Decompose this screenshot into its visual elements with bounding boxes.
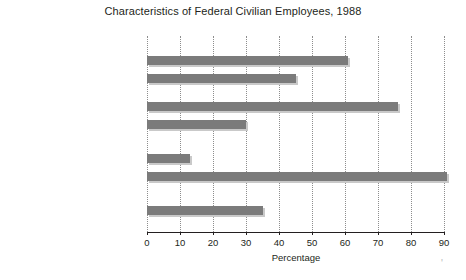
tick-label-30: 30 xyxy=(231,237,261,248)
tick-label-10: 10 xyxy=(165,237,195,248)
tick-30 xyxy=(246,232,247,235)
tick-60 xyxy=(345,232,346,235)
bar xyxy=(147,154,190,163)
bar xyxy=(147,120,246,129)
bar-fill xyxy=(147,120,246,129)
tick-40 xyxy=(279,232,280,235)
x-axis-line xyxy=(147,232,445,233)
bar xyxy=(147,74,296,83)
tick-label-70: 70 xyxy=(363,237,393,248)
tick-label-20: 20 xyxy=(198,237,228,248)
tick-80 xyxy=(411,232,412,235)
tick-label-60: 60 xyxy=(330,237,360,248)
bar-fill xyxy=(147,102,398,111)
bar xyxy=(147,172,447,181)
tick-label-40: 40 xyxy=(264,237,294,248)
chart-figure: Characteristics of Federal Civilian Empl… xyxy=(0,0,466,280)
tick-label-80: 80 xyxy=(396,237,426,248)
gridline-80 xyxy=(411,36,413,232)
bar xyxy=(147,56,348,65)
tick-10 xyxy=(180,232,181,235)
bar-fill xyxy=(147,172,447,181)
bar xyxy=(147,102,398,111)
plot-area xyxy=(147,36,444,232)
stray-mark: ' xyxy=(441,258,443,269)
gridline-70 xyxy=(378,36,380,232)
x-axis-label: Percentage xyxy=(147,252,445,263)
bar-fill xyxy=(147,154,190,163)
tick-label-0: 0 xyxy=(132,237,162,248)
bar-fill xyxy=(147,56,348,65)
tick-label-50: 50 xyxy=(297,237,327,248)
gridline-90 xyxy=(444,36,446,232)
tick-70 xyxy=(378,232,379,235)
bar-fill xyxy=(147,74,296,83)
bar xyxy=(147,206,263,215)
tick-label-90: 90 xyxy=(429,237,459,248)
tick-90 xyxy=(444,232,445,235)
tick-50 xyxy=(312,232,313,235)
chart-title: Characteristics of Federal Civilian Empl… xyxy=(0,5,466,17)
tick-0 xyxy=(147,232,148,235)
bar-fill xyxy=(147,206,263,215)
tick-20 xyxy=(213,232,214,235)
